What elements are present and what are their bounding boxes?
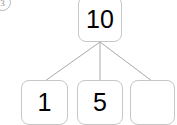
whole-box[interactable]: 10 (78, 0, 122, 42)
whole-value: 10 (86, 7, 114, 32)
part-box-2[interactable]: 5 (77, 80, 123, 125)
part-value-1: 1 (38, 90, 52, 115)
number-bond-diagram: 3 10 1 5 (0, 0, 177, 125)
connector-line-to-part-c (100, 42, 152, 81)
connector-line-to-part-a (45, 42, 100, 81)
part-box-1[interactable]: 1 (21, 80, 68, 125)
part-box-3[interactable] (130, 80, 175, 125)
part-value-2: 5 (93, 90, 107, 115)
